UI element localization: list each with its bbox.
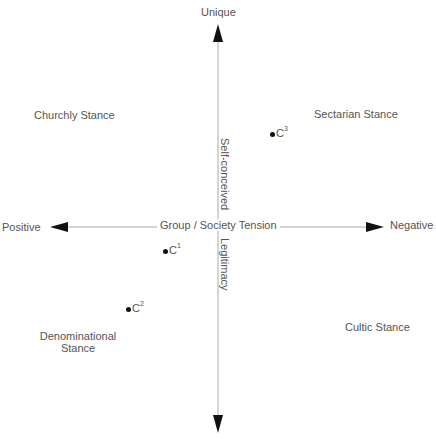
quadrant-denominational-line1: Denominational bbox=[28, 330, 128, 342]
quadrant-denominational-stance: Denominational Stance bbox=[28, 330, 128, 354]
quadrant-denominational-line2: Stance bbox=[28, 342, 128, 354]
upper-vertical-caption: Self-conceived bbox=[219, 136, 231, 212]
lower-vertical-caption: Legitimacy bbox=[219, 236, 231, 293]
point-c2: C2 bbox=[126, 302, 144, 314]
point-c1: C1 bbox=[163, 244, 181, 256]
arrow-down-icon bbox=[213, 415, 223, 433]
point-marker-icon bbox=[163, 249, 168, 254]
horizontal-axis-caption: Group / Society Tension bbox=[157, 219, 280, 231]
top-axis-label: Unique bbox=[201, 6, 236, 18]
arrow-right-icon bbox=[366, 222, 384, 232]
point-c3: C3 bbox=[270, 127, 288, 139]
arrow-up-icon bbox=[213, 24, 223, 42]
arrow-left-icon bbox=[50, 222, 68, 232]
left-axis-label: Positive bbox=[2, 221, 41, 233]
quadrant-cultic-stance: Cultic Stance bbox=[345, 321, 410, 333]
right-axis-label: Negative bbox=[390, 219, 433, 231]
quadrant-sectarian-stance: Sectarian Stance bbox=[314, 108, 398, 120]
point-marker-icon bbox=[126, 307, 131, 312]
quadrant-churchly-stance: Churchly Stance bbox=[34, 109, 115, 121]
point-marker-icon bbox=[270, 132, 275, 137]
